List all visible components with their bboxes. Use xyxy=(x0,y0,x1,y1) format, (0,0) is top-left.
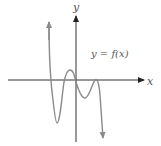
function-graph: y x y = f(x) xyxy=(0,0,161,146)
curve-label: y = f(x) xyxy=(90,48,129,59)
x-axis-label: x xyxy=(147,75,154,88)
y-axis-label: y xyxy=(72,1,80,14)
graph-canvas: y x y = f(x) xyxy=(0,0,161,146)
